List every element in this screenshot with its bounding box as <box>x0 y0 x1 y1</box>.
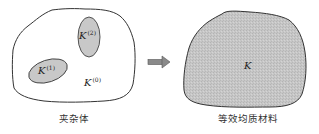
label-base: K <box>38 65 45 76</box>
arrow-right-icon <box>148 56 170 68</box>
matrix-label: K(0) <box>84 78 101 88</box>
label-superscript: (2) <box>87 29 96 36</box>
label-base: K <box>244 60 251 71</box>
left-caption: 夹杂体 <box>59 114 89 124</box>
homogeneous-label: K <box>244 61 251 71</box>
inclusion-2-label: K(2) <box>79 31 96 41</box>
label-base: K <box>84 77 91 88</box>
label-base: K <box>79 30 86 41</box>
label-superscript: (0) <box>92 76 101 83</box>
inclusion-1-label: K(1) <box>38 66 55 76</box>
label-superscript: (1) <box>46 64 55 71</box>
composite-body-outline <box>12 9 135 103</box>
right-caption: 等效均质材料 <box>218 114 278 124</box>
